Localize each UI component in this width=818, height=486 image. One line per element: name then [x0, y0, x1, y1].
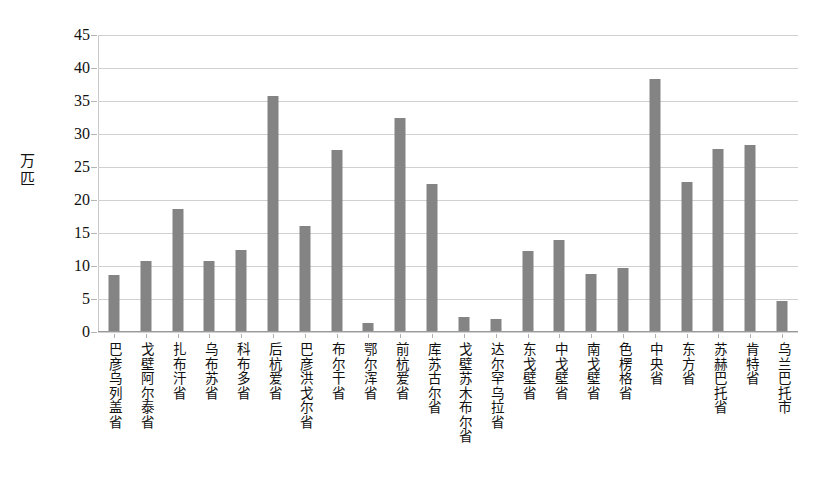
y-axis-tick [91, 266, 97, 267]
plot-area: 454035302520151050 [98, 35, 798, 332]
x-axis-tick-label: 巴彦洪戈尔省 [296, 342, 313, 429]
x-axis-tick-label: 色楞格省 [615, 342, 632, 400]
x-axis-tick-label: 戈壁阿尔泰省 [137, 342, 154, 429]
bar-slot [130, 35, 162, 332]
bar [586, 274, 597, 332]
x-axis-tick [591, 334, 592, 338]
y-axis-tick [91, 134, 97, 135]
y-axis-tick-label: 15 [74, 225, 90, 241]
y-axis-tick-label: 20 [74, 192, 90, 208]
bar [649, 79, 660, 332]
bar-slot [766, 35, 798, 332]
x-axis-tick [305, 334, 306, 338]
bar-slot [384, 35, 416, 332]
x-axis-tick-label: 科布多省 [233, 342, 250, 400]
x-axis-tick-label: 达尔罕乌拉省 [487, 342, 504, 429]
y-axis-tick [91, 332, 97, 333]
x-axis-tick [241, 334, 242, 338]
bar [427, 184, 438, 333]
bar-series [98, 35, 798, 332]
x-axis-tick [146, 334, 147, 338]
x-axis-tick [368, 334, 369, 338]
y-axis-tick [91, 299, 97, 300]
y-axis-tick [91, 101, 97, 102]
y-axis-tick-label: 0 [82, 324, 90, 340]
bar [617, 268, 628, 332]
bar [395, 118, 406, 332]
x-axis-baseline [98, 331, 798, 332]
y-axis-tick-label: 30 [74, 126, 90, 142]
x-axis-tick-label: 库苏古尔省 [424, 342, 441, 415]
x-axis-tick-label: 后杭爱省 [265, 342, 282, 400]
bar-slot [512, 35, 544, 332]
x-axis-tick [623, 334, 624, 338]
bar [522, 251, 533, 332]
x-axis-tick [273, 334, 274, 338]
bar [331, 150, 342, 332]
y-axis-tick [91, 200, 97, 201]
bar-chart: 万匹 454035302520151050 巴彦乌列盖省戈壁阿尔泰省扎布汗省乌布… [0, 0, 818, 486]
y-axis-tick-label: 25 [74, 159, 90, 175]
bar [554, 240, 565, 332]
bar-slot [575, 35, 607, 332]
y-axis-tick [91, 68, 97, 69]
y-axis-title: 万匹 [16, 152, 38, 188]
bar-slot [353, 35, 385, 332]
bar-slot [703, 35, 735, 332]
bar [108, 275, 119, 332]
bar [777, 301, 788, 332]
x-axis-tick-label: 肯特省 [742, 342, 759, 386]
bar-slot [543, 35, 575, 332]
bar [713, 149, 724, 332]
bar-slot [225, 35, 257, 332]
bar-slot [289, 35, 321, 332]
x-axis-tick [782, 334, 783, 338]
bar-slot [480, 35, 512, 332]
x-axis-tick [178, 334, 179, 338]
bar [458, 317, 469, 332]
x-axis-tick-label: 前杭爱省 [392, 342, 409, 400]
x-axis-tick [464, 334, 465, 338]
x-axis-tick [400, 334, 401, 338]
x-axis-labels: 巴彦乌列盖省戈壁阿尔泰省扎布汗省乌布苏省科布多省后杭爱省巴彦洪戈尔省布尔干省鄂尔… [98, 338, 798, 483]
x-axis-tick-label: 鄂尔浑省 [360, 342, 377, 400]
y-axis-tick [91, 35, 97, 36]
x-axis-tick [655, 334, 656, 338]
bar-slot [193, 35, 225, 332]
bar [236, 250, 247, 332]
y-axis-tick-label: 35 [74, 93, 90, 109]
gridline [98, 332, 798, 333]
x-axis-tick-label: 中央省 [646, 342, 663, 386]
x-axis-tick-label: 巴彦乌列盖省 [105, 342, 122, 429]
x-axis-tick [718, 334, 719, 338]
y-axis-tick [91, 233, 97, 234]
bar [681, 182, 692, 332]
bar-slot [321, 35, 353, 332]
x-axis-tick-label: 南戈壁省 [583, 342, 600, 400]
bar [267, 96, 278, 332]
bar [745, 145, 756, 332]
bar-slot [162, 35, 194, 332]
x-axis-tick-label: 乌布苏省 [201, 342, 218, 400]
bar [172, 209, 183, 332]
y-axis-title-text: 万匹 [16, 152, 38, 188]
x-axis-tick-label: 东方省 [678, 342, 695, 386]
x-axis-tick-label: 苏赫巴托省 [710, 342, 727, 415]
x-axis-tick [432, 334, 433, 338]
y-axis-tick-label: 10 [74, 258, 90, 274]
bar-slot [607, 35, 639, 332]
x-axis-tick-label: 扎布汗省 [169, 342, 186, 400]
x-axis-tick-label: 中戈壁省 [551, 342, 568, 400]
bar [140, 261, 151, 332]
x-axis-tick [687, 334, 688, 338]
x-axis-tick [528, 334, 529, 338]
y-axis-tick [91, 167, 97, 168]
x-axis-tick [496, 334, 497, 338]
x-axis-tick-label: 戈壁苏木布尔省 [455, 342, 472, 444]
bar-slot [448, 35, 480, 332]
x-axis-tick [209, 334, 210, 338]
y-axis-tick-label: 40 [74, 60, 90, 76]
bar-slot [257, 35, 289, 332]
bar-slot [734, 35, 766, 332]
x-axis-tick [114, 334, 115, 338]
